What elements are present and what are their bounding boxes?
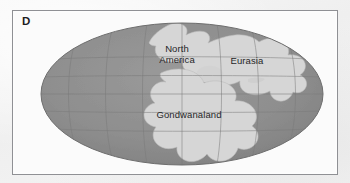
figure-panel-d: D xyxy=(0,0,350,183)
map-label-eurasia: Eurasia xyxy=(219,55,275,66)
world-map: North America Eurasia Gondwanaland xyxy=(13,11,339,176)
map-label-north-america: North America xyxy=(147,43,207,65)
map-label-gondwanaland: Gondwanaland xyxy=(134,109,244,120)
map-svg xyxy=(13,11,339,176)
figure-frame: D xyxy=(12,10,338,175)
